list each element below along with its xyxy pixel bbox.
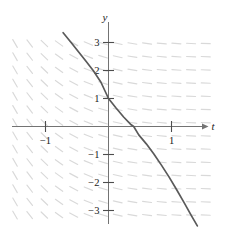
slope-field-dash [55,80,62,85]
slope-field-dash [84,42,92,45]
slope-field-dash [172,122,181,123]
slope-field-dash [99,121,108,124]
slope-field-dash [55,199,62,204]
slope-field-dash [157,83,166,84]
slope-field-dash [55,133,62,138]
slope-field-dash [55,212,62,217]
slope-field-dash [84,121,92,124]
slope-field-dash [157,56,166,57]
slope-field-dash [113,135,122,137]
slope-field-dash [55,94,62,99]
slope-field-dash [13,106,18,114]
t-axis-label: t [211,120,215,132]
slope-field-dash [84,200,92,203]
slope-field-group [13,40,210,219]
slope-field-dash [157,215,166,216]
slope-field-dash [128,162,137,163]
slope-field-dash [157,201,166,202]
x-axis-arrow [202,124,209,130]
slope-field-dash [128,135,137,136]
slope-field-dash [99,187,108,190]
y-tick-label: −1 [88,149,99,160]
slope-field-dash [41,199,47,205]
slope-field-dash [70,213,78,217]
slope-field-dash [99,174,108,177]
slope-field-dash [70,200,78,204]
slope-field-dash [27,172,33,179]
slope-field-dash [157,149,166,150]
slope-field-dash [128,69,137,70]
slope-field-dash [13,158,18,166]
slope-field-dash [27,80,33,87]
slope-field-dash [99,201,108,204]
slope-field-dash [128,43,137,44]
slope-field-dash [84,81,92,84]
slope-field-dash [157,188,166,189]
slope-field-dash [27,53,33,60]
slope-field-dash [143,188,152,189]
slope-field-dash [172,215,181,216]
slope-field-dash [13,211,18,219]
slope-field-dash [128,188,137,189]
slope-field-dash [172,109,181,110]
slope-field-dash [84,108,92,111]
slope-field-dash [70,121,78,125]
slope-field-dash [13,92,18,100]
slope-field-dash [113,148,122,150]
slope-field-figure: −11321−1−2−3 y t [0,0,229,229]
slope-field-dash [70,147,78,151]
solution-curve [63,33,197,226]
slope-field-dash [13,119,18,127]
slope-field-dash [41,212,47,218]
slope-field-dash [41,80,47,86]
slope-field-dash [172,175,181,176]
slope-field-dash [70,68,78,72]
slope-field-dash [99,108,108,111]
y-tick-label: −3 [88,205,99,216]
slope-field-dash [113,175,122,177]
slope-field-dash [41,93,47,99]
slope-field-dash [113,43,122,45]
slope-field-dash [157,43,166,44]
slope-field-dash [143,201,152,202]
slope-field-dash [55,67,62,72]
slope-field-dash [41,159,47,165]
slope-field-dash [157,96,166,97]
slope-field-dash [41,40,47,46]
slope-field-dash [128,175,137,176]
slope-field-dash [41,146,47,152]
slope-field-dash [113,201,122,203]
slope-field-dash [157,175,166,176]
slope-field-dash [143,83,152,84]
x-tick-label: 1 [169,135,174,146]
slope-field-dash [128,214,137,215]
slope-field-dash [41,106,47,112]
slope-field-dash [157,109,166,110]
slope-field-dash [128,201,137,202]
slope-field-dash [13,198,18,206]
slope-field-dash [143,162,152,163]
slope-field-dash [27,93,33,100]
slope-field-dash [13,185,18,193]
slope-field-dash [84,55,92,58]
slope-field-dash [27,146,33,153]
slope-field-dash [55,173,62,178]
slope-field-dash [113,82,122,84]
slope-field-dash [55,186,62,191]
slope-field-dash [172,43,181,44]
slope-field-dash [70,107,78,111]
slope-field-dash [99,95,108,98]
slope-field-dash [27,185,33,192]
slope-field-dash [113,214,122,216]
slope-field-dash [157,69,166,70]
slope-field-dash [13,172,18,180]
slope-field-dash [70,173,78,177]
slope-field-dash [13,132,18,140]
slope-field-dash [13,79,18,87]
slope-field-dash [55,107,62,112]
slope-field-dash [27,40,33,47]
slope-field-dash [172,149,181,150]
slope-field-dash [172,96,181,97]
slope-field-dash [99,135,108,138]
slope-field-dash [113,188,122,190]
